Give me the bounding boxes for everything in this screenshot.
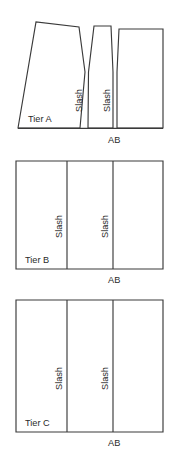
- tier-b-label: Tier B: [25, 255, 49, 265]
- tier-a-group: Tier A Slash Slash AB: [18, 22, 163, 145]
- tier-a-segment-right: [117, 29, 163, 128]
- tier-c-outline: [16, 300, 163, 432]
- tier-c-ab-label: AB: [108, 438, 120, 448]
- tier-a-ab-label: AB: [108, 135, 120, 145]
- tier-a-slash-label-2: Slash: [102, 89, 112, 112]
- tier-b-group: Tier B Slash Slash AB: [16, 161, 163, 285]
- tier-c-slash-label-1: Slash: [54, 367, 64, 390]
- tier-a-label: Tier A: [28, 114, 53, 124]
- diagram-canvas: Tier A Slash Slash AB Tier B Slash Slash…: [0, 0, 178, 468]
- tier-b-slash-label-2: Slash: [100, 215, 110, 238]
- pattern-diagram: Tier A Slash Slash AB Tier B Slash Slash…: [0, 0, 178, 468]
- tier-c-slash-label-2: Slash: [100, 367, 110, 390]
- tier-b-outline: [16, 161, 163, 269]
- tier-b-ab-label: AB: [108, 275, 120, 285]
- tier-a-slash-label-1: Slash: [74, 89, 84, 112]
- tier-c-label: Tier C: [25, 418, 50, 428]
- tier-b-slash-label-1: Slash: [54, 215, 64, 238]
- tier-c-group: Tier C Slash Slash AB: [16, 300, 163, 448]
